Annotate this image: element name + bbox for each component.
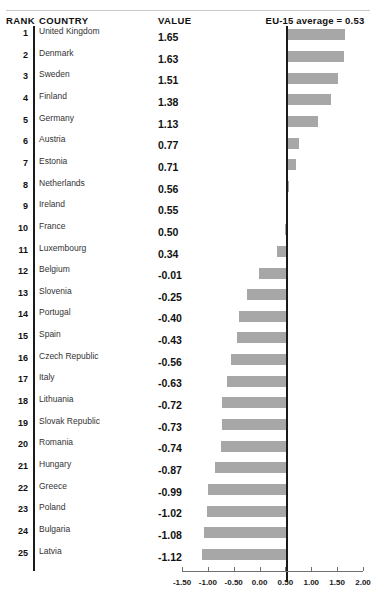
country-name-cell: Spain	[39, 329, 61, 339]
value-cell: 0.56	[158, 183, 178, 195]
table-row: 5Germany1.13	[0, 112, 376, 133]
value-cell: -0.56	[158, 356, 182, 368]
country-name-cell: Poland	[39, 502, 65, 512]
value-cell: -0.01	[158, 269, 182, 281]
x-axis-tick	[182, 567, 183, 571]
value-cell: 0.50	[158, 226, 178, 238]
value-cell: 1.51	[158, 74, 178, 86]
x-axis-tick	[285, 567, 286, 571]
x-axis-tick	[363, 567, 364, 571]
rank-cell: 22	[6, 483, 28, 493]
x-axis-tick	[260, 567, 261, 571]
rank-cell: 16	[6, 353, 28, 363]
table-row: 4Finland1.38	[0, 90, 376, 111]
table-row: 18Lithuania-0.72	[0, 393, 376, 414]
country-name-cell: Portugal	[39, 307, 71, 317]
country-name-cell: Denmark	[39, 48, 73, 58]
value-cell: 0.71	[158, 161, 178, 173]
value-cell: -0.25	[158, 291, 182, 303]
chart-page: RANK COUNTRY VALUE EU-15 average = 0.53 …	[0, 0, 376, 599]
country-name-cell: Belgium	[39, 264, 70, 274]
value-cell: -0.73	[158, 421, 182, 433]
rank-cell: 14	[6, 309, 28, 319]
rank-cell: 1	[6, 28, 28, 38]
table-row: 20Romania-0.74	[0, 436, 376, 457]
country-name-cell: Ireland	[39, 199, 65, 209]
country-name-cell: Romania	[39, 437, 73, 447]
rank-cell: 7	[6, 158, 28, 168]
table-row: 25Latvia-1.12	[0, 545, 376, 566]
table-row: 3Sweden1.51	[0, 68, 376, 89]
table-row: 17Italy-0.63	[0, 371, 376, 392]
rank-cell: 15	[6, 331, 28, 341]
value-cell: 1.13	[158, 118, 178, 130]
rank-cell: 8	[6, 180, 28, 190]
rank-cell: 10	[6, 223, 28, 233]
rank-cell: 23	[6, 504, 28, 514]
rank-cell: 18	[6, 396, 28, 406]
x-axis-line	[182, 571, 363, 572]
value-cell: -1.08	[158, 529, 182, 541]
rank-cell: 11	[6, 245, 28, 255]
country-name-cell: Greece	[39, 481, 67, 491]
table-row: 14Portugal-0.40	[0, 306, 376, 327]
rank-cell: 13	[6, 288, 28, 298]
value-cell: -0.43	[158, 334, 182, 346]
value-cell: -0.74	[158, 442, 182, 454]
country-name-cell: Sweden	[39, 69, 70, 79]
country-name-cell: Netherlands	[39, 178, 85, 188]
rank-cell: 17	[6, 374, 28, 384]
x-axis-tick	[234, 567, 235, 571]
value-cell: 0.34	[158, 248, 178, 260]
country-name-cell: Slovenia	[39, 286, 72, 296]
value-cell: -0.99	[158, 486, 182, 498]
value-cell: -1.02	[158, 507, 182, 519]
rank-cell: 25	[6, 548, 28, 558]
country-name-cell: Italy	[39, 372, 55, 382]
rank-cell: 21	[6, 461, 28, 471]
table-row: 11Luxembourg0.34	[0, 242, 376, 263]
rank-cell: 2	[6, 50, 28, 60]
country-name-cell: Germany	[39, 113, 74, 123]
table-row: 12Belgium-0.01	[0, 263, 376, 284]
value-cell: 0.55	[158, 204, 178, 216]
table-row: 23Poland-1.02	[0, 501, 376, 522]
country-name-cell: Austria	[39, 134, 65, 144]
top-divider	[6, 10, 370, 11]
rank-cell: 5	[6, 115, 28, 125]
country-name-cell: Luxembourg	[39, 243, 86, 253]
value-cell: -0.63	[158, 377, 182, 389]
x-axis-tick	[208, 567, 209, 571]
table-row: 6Austria0.77	[0, 133, 376, 154]
table-row: 1United Kingdom1.65	[0, 25, 376, 46]
table-row: 19Slovak Republic-0.73	[0, 415, 376, 436]
value-cell: -0.72	[158, 399, 182, 411]
rank-cell: 3	[6, 71, 28, 81]
value-cell: 1.65	[158, 31, 178, 43]
value-cell: 1.63	[158, 53, 178, 65]
country-name-cell: Latvia	[39, 546, 62, 556]
rank-cell: 24	[6, 526, 28, 536]
country-name-cell: Czech Republic	[39, 351, 99, 361]
table-row: 16Czech Republic-0.56	[0, 350, 376, 371]
country-name-cell: Slovak Republic	[39, 416, 100, 426]
table-row: 2Denmark1.63	[0, 47, 376, 68]
value-cell: -1.12	[158, 551, 182, 563]
rank-cell: 4	[6, 93, 28, 103]
rank-cell: 12	[6, 266, 28, 276]
table-row: 15Spain-0.43	[0, 328, 376, 349]
country-name-cell: Lithuania	[39, 394, 74, 404]
country-name-cell: Bulgaria	[39, 524, 70, 534]
table-row: 10France0.50	[0, 220, 376, 241]
country-name-cell: Hungary	[39, 459, 71, 469]
country-name-cell: Finland	[39, 91, 67, 101]
rank-cell: 6	[6, 136, 28, 146]
rank-cell: 9	[6, 201, 28, 211]
rank-cell: 19	[6, 418, 28, 428]
value-cell: 1.38	[158, 96, 178, 108]
x-axis-tick	[311, 567, 312, 571]
value-cell: -0.87	[158, 464, 182, 476]
rank-cell: 20	[6, 439, 28, 449]
x-axis-tick-label: 2.00	[343, 578, 376, 587]
table-row: 9Ireland0.55	[0, 198, 376, 219]
